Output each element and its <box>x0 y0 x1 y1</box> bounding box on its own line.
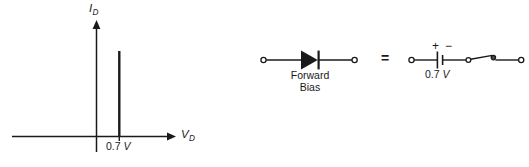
y-axis-label-sub: D <box>93 8 99 17</box>
switch-blade <box>471 55 493 59</box>
diode-forward-bias-figure: ID VD 0.7 V Forward Bias = + − 0.7 V <box>0 0 529 167</box>
y-axis-arrowhead <box>93 20 101 29</box>
switch-left-pivot-node <box>466 58 471 63</box>
figure-vector-canvas <box>0 0 529 167</box>
source-voltage-value: 0.7 <box>425 68 440 80</box>
knee-voltage-unit: V <box>124 140 131 152</box>
equivalent-circuit <box>409 52 524 69</box>
x-axis-arrowhead <box>167 133 176 141</box>
battery-plus-sign: + <box>432 40 439 53</box>
y-axis-label-main: I <box>89 2 92 14</box>
diode-left-terminal-node <box>261 57 266 62</box>
diode-anode-triangle <box>301 51 318 70</box>
source-voltage-label: 0.7 V <box>425 69 450 81</box>
iv-characteristic-graph <box>12 20 176 152</box>
x-axis-label-sub: D <box>189 134 195 143</box>
forward-bias-caption: Forward Bias <box>286 70 334 94</box>
equals-sign: = <box>381 51 389 67</box>
diode-right-terminal-node <box>352 57 357 62</box>
equiv-left-terminal-node <box>409 57 414 62</box>
forward-bias-caption-line2: Bias <box>286 82 334 94</box>
forward-bias-caption-line1: Forward <box>286 70 334 82</box>
knee-voltage-value: 0.7 <box>106 140 121 152</box>
source-voltage-unit: V <box>443 68 450 80</box>
x-axis-label: VD <box>181 128 195 141</box>
battery-minus-sign: − <box>445 40 452 53</box>
equiv-right-terminal-node <box>519 57 524 62</box>
x-axis-label-main: V <box>181 128 189 140</box>
knee-voltage-label: 0.7 V <box>106 141 131 153</box>
y-axis-label: ID <box>89 2 98 15</box>
diode-symbol-circuit <box>261 51 357 70</box>
switch-right-contact-node <box>491 55 495 59</box>
